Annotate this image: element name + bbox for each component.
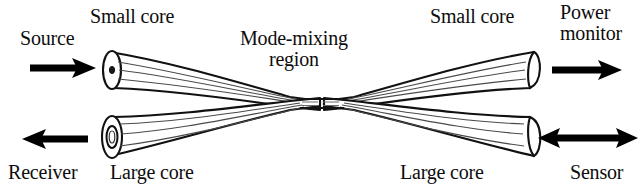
lower-fiber-left-body (110, 98, 320, 156)
lower-fiber-right-body (324, 98, 534, 156)
arrow-source (30, 58, 96, 78)
label-small-core-left: Small core (90, 6, 174, 27)
upper-fiber-right-endface (528, 52, 540, 88)
upper-fiber-small-core-dot (109, 66, 114, 73)
label-small-core-right: Small core (430, 6, 514, 27)
lower-fiber-large-core-inner (109, 131, 115, 143)
lower-fiber-right-endface (528, 117, 540, 156)
label-power-monitor: Power monitor (560, 2, 622, 44)
arrow-power-monitor (552, 60, 622, 80)
label-sensor: Sensor (570, 162, 623, 183)
label-large-core-right: Large core (400, 162, 484, 183)
label-mode-mixing-region: Mode-mixing region (240, 28, 348, 70)
label-receiver: Receiver (8, 162, 77, 183)
fiber-coupler-figure: Source Small core Mode-mixing region Sma… (0, 0, 644, 193)
arrow-sensor (538, 128, 638, 148)
label-source: Source (20, 28, 74, 49)
arrow-receiver (22, 129, 88, 149)
label-large-core-left: Large core (110, 162, 194, 183)
